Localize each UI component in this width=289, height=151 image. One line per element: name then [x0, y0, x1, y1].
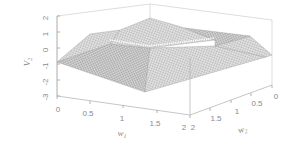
z-tick: 2 [41, 15, 50, 20]
y-tick: 0.5 [251, 99, 263, 108]
surface-plot: 2 1 0 -1 -2 -3 V2 [0, 0, 289, 151]
z-tick: 1 [41, 31, 50, 36]
x-tick: 1 [120, 114, 125, 123]
y-tick: 0 [274, 92, 279, 101]
x-tick: 0 [56, 105, 61, 114]
z-tick: -3 [41, 93, 50, 101]
x-tick: 1.5 [149, 119, 161, 128]
surface-mesh [57, 18, 272, 92]
x-tick: 0.5 [82, 109, 94, 118]
z-axis-label: V2 [22, 58, 33, 67]
z-tick: -2 [41, 78, 50, 86]
y-tick: 1 [235, 107, 240, 116]
y-axis: 2 1.5 1 0.5 0 w2 [191, 85, 279, 136]
y-tick: 2 [191, 123, 196, 132]
z-tick: -1 [41, 62, 50, 70]
x-axis: 0 0.5 1 1.5 2 w1 [56, 96, 190, 139]
x-tick: 2 [182, 123, 187, 132]
y-tick: 1.5 [210, 114, 222, 123]
x-axis-label: w1 [117, 128, 126, 139]
z-axis: 2 1 0 -1 -2 -3 V2 [22, 15, 60, 100]
z-tick: 0 [41, 47, 50, 52]
y-axis-label: w2 [237, 123, 249, 136]
